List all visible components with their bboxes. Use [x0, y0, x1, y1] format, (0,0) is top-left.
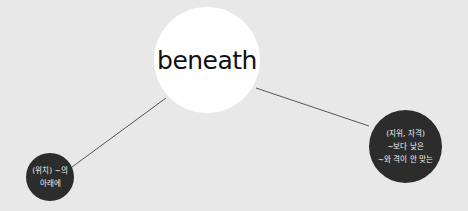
center-word: beneath [157, 46, 257, 75]
branch-line: (지위, 자격) [378, 127, 433, 140]
branch-line: (위치) ~의 [32, 164, 68, 177]
center-node: beneath [154, 7, 260, 113]
connector-left [72, 98, 166, 167]
branch-line: ~보다 낮은 [378, 140, 433, 153]
branch-line: 아래에 [32, 177, 68, 190]
branch-text: (지위, 자격) ~보다 낮은 ~와 격이 안 맞는 [378, 127, 433, 166]
branch-node-rank: (지위, 자격) ~보다 낮은 ~와 격이 안 맞는 [369, 110, 442, 183]
branch-node-position: (위치) ~의 아래에 [26, 153, 74, 201]
branch-line: ~와 격이 안 맞는 [378, 153, 433, 166]
connector-right [256, 88, 369, 126]
branch-text: (위치) ~의 아래에 [32, 164, 68, 190]
